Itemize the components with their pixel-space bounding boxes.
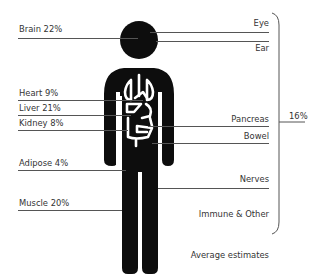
line-kidney bbox=[18, 130, 128, 131]
label-bowel: Bowel bbox=[244, 131, 269, 141]
label-ear: Ear bbox=[255, 43, 269, 53]
line-heart bbox=[18, 100, 143, 101]
line-nerves bbox=[158, 188, 269, 189]
head bbox=[120, 21, 158, 59]
label-nerves: Nerves bbox=[240, 174, 269, 184]
label-immune-other: Immune & Other bbox=[199, 209, 269, 219]
label-liver: Liver 21% bbox=[19, 103, 61, 113]
line-bowel bbox=[152, 143, 269, 144]
footnote: Average estimates bbox=[191, 250, 269, 260]
label-muscle: Muscle 20% bbox=[19, 198, 69, 208]
label-kidney: Kidney 8% bbox=[19, 118, 64, 128]
line-liver bbox=[18, 115, 131, 116]
label-heart: Heart 9% bbox=[19, 88, 58, 98]
line-adipose bbox=[18, 170, 126, 171]
line-brain bbox=[18, 38, 138, 39]
label-brain: Brain 22% bbox=[19, 24, 62, 34]
bracket-total: 16% bbox=[289, 111, 308, 121]
line-muscle bbox=[18, 210, 122, 211]
label-pancreas: Pancreas bbox=[231, 114, 269, 124]
label-eye: Eye bbox=[254, 18, 269, 28]
line-ear bbox=[156, 41, 269, 42]
line-eye bbox=[150, 32, 269, 33]
label-adipose: Adipose 4% bbox=[19, 158, 68, 168]
line-pancreas bbox=[148, 126, 269, 127]
bracket bbox=[272, 13, 279, 234]
